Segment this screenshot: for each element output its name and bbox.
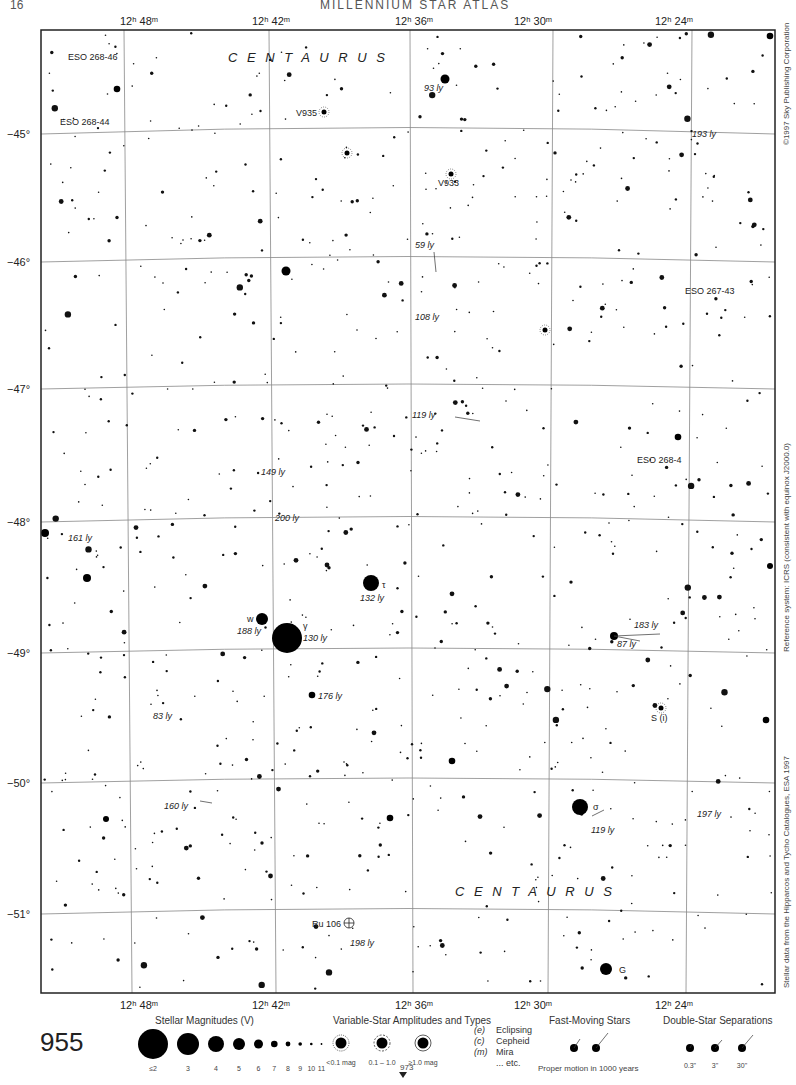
star: [405, 891, 407, 893]
magnitude-label: 9: [298, 1065, 302, 1072]
star: [465, 405, 467, 407]
star: [465, 841, 467, 843]
double-star-label: 0.3": [684, 1062, 697, 1069]
star: [85, 546, 91, 552]
star: [188, 499, 190, 501]
star: [656, 36, 658, 38]
star: [451, 238, 453, 240]
star: [184, 846, 189, 851]
star: [370, 411, 372, 413]
star: [614, 545, 616, 547]
star: [292, 486, 294, 488]
star: [78, 501, 80, 503]
star: [768, 276, 770, 278]
star: [668, 516, 670, 518]
star: [616, 309, 618, 311]
star: [252, 739, 254, 741]
star: [516, 492, 521, 497]
star: [194, 807, 196, 809]
star: [411, 743, 413, 745]
star: [552, 80, 554, 82]
star: [333, 383, 335, 385]
star: [401, 725, 403, 727]
star: [511, 472, 513, 474]
star: [396, 525, 398, 527]
star: [309, 553, 311, 555]
star: [606, 110, 608, 112]
star: [48, 347, 50, 349]
star: [561, 689, 563, 691]
star: [131, 392, 133, 394]
star: [663, 306, 666, 309]
star: [752, 284, 754, 286]
star: [327, 461, 329, 463]
star: [647, 42, 652, 47]
star: [325, 563, 330, 568]
star: [570, 847, 572, 849]
star: [504, 140, 506, 142]
star: [204, 282, 206, 284]
star: [689, 674, 692, 677]
star: [145, 225, 147, 227]
star: [624, 976, 627, 979]
continuation-page[interactable]: 973: [400, 1063, 413, 1072]
star: [648, 975, 650, 977]
star: [326, 94, 328, 96]
star: [537, 877, 539, 879]
star: [413, 926, 415, 928]
star: [95, 699, 97, 701]
star: [660, 646, 662, 648]
star: [321, 548, 323, 550]
star: [150, 704, 152, 706]
star: [564, 211, 566, 213]
star: [282, 949, 284, 951]
star: [269, 500, 271, 502]
star: [647, 432, 649, 434]
star: [487, 980, 489, 982]
star: [432, 233, 434, 235]
star: [157, 695, 159, 697]
bright-star: [767, 563, 773, 569]
star: [306, 854, 309, 857]
star: [616, 691, 618, 693]
ra-label-top: 12ʰ 30ᵐ: [514, 15, 552, 27]
star: [746, 400, 748, 402]
star: [140, 761, 142, 763]
star: [601, 876, 606, 881]
star: [707, 88, 709, 90]
star: [712, 200, 714, 202]
dec-label: −50°: [7, 777, 30, 789]
star: [91, 883, 93, 885]
magnitude-label: 4: [214, 1065, 218, 1072]
star: [602, 772, 604, 774]
star: [429, 945, 431, 947]
star: [207, 233, 212, 238]
star: [372, 198, 374, 200]
star: [656, 551, 658, 553]
star: [595, 639, 597, 641]
star: [259, 982, 265, 988]
star: [74, 136, 76, 138]
star: [625, 186, 630, 191]
star: [486, 621, 489, 624]
star: [691, 791, 693, 793]
star: [726, 428, 728, 430]
star: [537, 813, 542, 818]
star: [309, 242, 311, 244]
star: [115, 888, 117, 890]
star: [122, 820, 124, 822]
star: [546, 195, 548, 197]
variable-type-eclipsing: (e)Eclipsing: [474, 1025, 532, 1036]
star: [98, 275, 100, 277]
star: [457, 506, 459, 508]
star: [393, 136, 395, 138]
star: [249, 93, 252, 96]
star: [670, 665, 672, 667]
star: [51, 791, 53, 793]
star: [631, 903, 633, 905]
dec-label: −49°: [7, 647, 30, 659]
star: [190, 32, 192, 34]
star: [418, 115, 421, 118]
star: [349, 889, 351, 891]
star: [633, 157, 635, 159]
